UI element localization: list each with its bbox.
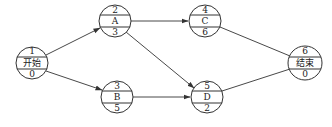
node-b: 3 B 5 bbox=[101, 81, 133, 114]
node-id: 5 bbox=[204, 81, 210, 91]
node-name: D bbox=[203, 92, 210, 102]
node-name: 结束 bbox=[296, 57, 314, 68]
edge-start-to-a bbox=[46, 28, 100, 55]
node-name: 开始 bbox=[23, 57, 41, 68]
edge-start-to-b bbox=[46, 71, 102, 90]
node-name: B bbox=[114, 92, 121, 102]
node-id: 6 bbox=[302, 46, 308, 56]
node-start: 1 开始 0 bbox=[16, 46, 48, 79]
node-duration: 5 bbox=[114, 103, 120, 113]
node-a: 2 A 3 bbox=[99, 5, 131, 38]
node-id: 3 bbox=[114, 81, 120, 91]
node-duration: 6 bbox=[202, 27, 208, 37]
node-d: 5 D 2 bbox=[191, 81, 223, 114]
edge-a-to-d bbox=[126, 32, 194, 88]
node-duration: 0 bbox=[302, 69, 308, 79]
node-c: 4 C 6 bbox=[189, 5, 221, 38]
node-name: A bbox=[111, 16, 119, 26]
node-id: 2 bbox=[112, 5, 118, 15]
network-diagram: 1 开始 0 2 A 3 3 B 5 4 C 6 5 D 2 bbox=[0, 0, 332, 127]
node-duration: 2 bbox=[204, 103, 210, 113]
edge-d-to-end bbox=[222, 69, 290, 91]
node-duration: 0 bbox=[29, 69, 35, 79]
node-end: 6 结束 0 bbox=[288, 46, 322, 80]
node-id: 1 bbox=[29, 46, 35, 56]
node-id: 4 bbox=[202, 5, 208, 15]
edge-c-to-end bbox=[220, 27, 290, 56]
node-name: C bbox=[202, 16, 209, 26]
node-duration: 3 bbox=[112, 27, 118, 37]
